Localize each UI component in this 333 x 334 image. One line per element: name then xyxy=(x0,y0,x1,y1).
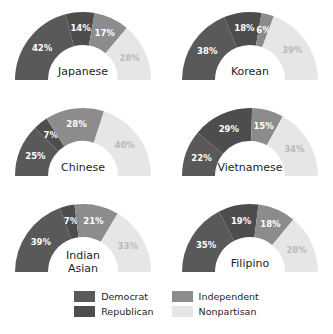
half-donut-chinese: 25%7%28%40%Chinese xyxy=(2,96,164,192)
half-donut-japanese: 42%14%17%28%Japanese xyxy=(2,0,164,96)
legend-swatch-republican xyxy=(74,306,95,317)
legend-swatch-independent xyxy=(172,291,193,302)
legend-swatch-democrat xyxy=(74,291,95,302)
legend-grid: DemocratIndependentRepublicanNonpartisan xyxy=(74,288,259,317)
chart-grid: 42%14%17%28%Japanese38%18%6%39%Korean25%… xyxy=(0,0,333,288)
half-donut-indian-asian: 39%7%21%33%IndianAsian xyxy=(2,192,164,288)
chart-title: Filipino xyxy=(231,257,270,270)
legend-label: Republican xyxy=(101,306,153,317)
half-donut-vietnamese: 22%29%15%34%Vietnamese xyxy=(169,96,331,192)
legend-label: Independent xyxy=(199,291,259,302)
chart-cell-japanese: 42%14%17%28%Japanese xyxy=(0,0,167,96)
slice-label-nonpartisan: 33% xyxy=(118,241,139,251)
slice-label-nonpartisan: 28% xyxy=(120,53,141,63)
half-donut-korean: 38%18%6%39%Korean xyxy=(169,0,331,96)
legend-item-republican[interactable]: Republican xyxy=(74,306,153,317)
chart-title: Japanese xyxy=(57,65,108,78)
legend-item-democrat[interactable]: Democrat xyxy=(74,291,153,302)
slice-label-republican: 18% xyxy=(234,23,255,33)
chart-title: Indian xyxy=(66,249,100,262)
chart-title: Korean xyxy=(231,65,269,78)
slice-label-republican: 19% xyxy=(231,216,252,226)
chart-title: Asian xyxy=(68,262,98,275)
slice-label-nonpartisan: 34% xyxy=(284,144,305,154)
slice-label-republican: 14% xyxy=(71,23,92,33)
legend-item-nonpartisan[interactable]: Nonpartisan xyxy=(172,306,259,317)
chart-title: Chinese xyxy=(61,161,105,174)
legend-item-independent[interactable]: Independent xyxy=(172,291,259,302)
half-donut-filipino: 35%19%18%28%Filipino xyxy=(169,192,331,288)
chart-cell-indian-asian: 39%7%21%33%IndianAsian xyxy=(0,192,167,288)
legend-swatch-nonpartisan xyxy=(172,306,193,317)
chart-cell-vietnamese: 22%29%15%34%Vietnamese xyxy=(167,96,333,192)
slice-label-nonpartisan: 40% xyxy=(115,140,136,150)
slice-label-democrat: 35% xyxy=(196,240,217,250)
chart-cell-filipino: 35%19%18%28%Filipino xyxy=(167,192,333,288)
slice-label-independent: 28% xyxy=(67,119,88,129)
slice-label-republican: 29% xyxy=(218,124,239,134)
slice-label-nonpartisan: 39% xyxy=(282,45,303,55)
slice-label-democrat: 38% xyxy=(197,46,218,56)
slice-label-independent: 21% xyxy=(84,216,105,226)
slice-label-independent: 17% xyxy=(95,28,116,38)
legend-label: Democrat xyxy=(101,291,148,302)
chart-cell-korean: 38%18%6%39%Korean xyxy=(167,0,333,96)
slice-label-democrat: 42% xyxy=(32,43,53,53)
slice-label-democrat: 39% xyxy=(31,237,52,247)
slice-label-independent: 18% xyxy=(260,219,281,229)
half-donut-chart-figure: 42%14%17%28%Japanese38%18%6%39%Korean25%… xyxy=(0,0,333,334)
legend-label: Nonpartisan xyxy=(199,306,257,317)
chart-title: Vietnamese xyxy=(217,161,282,174)
chart-cell-chinese: 25%7%28%40%Chinese xyxy=(0,96,167,192)
slice-label-nonpartisan: 28% xyxy=(286,245,307,255)
slice-label-democrat: 25% xyxy=(25,151,46,161)
chart-legend: DemocratIndependentRepublicanNonpartisan xyxy=(0,288,333,334)
slice-label-independent: 15% xyxy=(253,121,274,131)
slice-label-democrat: 22% xyxy=(191,153,212,163)
